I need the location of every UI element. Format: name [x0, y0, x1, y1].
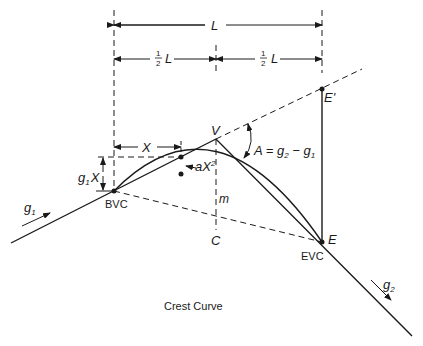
point-curve-x	[179, 172, 184, 177]
angle-arc	[244, 124, 251, 158]
half-num-1: 1	[156, 49, 161, 58]
half-num-2: 1	[261, 49, 266, 58]
label-a-equation: A = g2 − g1	[253, 143, 315, 160]
label-v: V	[211, 123, 221, 138]
label-c: C	[211, 233, 221, 248]
tangent-extension-dashed	[216, 69, 362, 139]
label-ax2: aX2	[195, 159, 216, 174]
label-m: m	[219, 192, 229, 206]
label-L: L	[211, 18, 218, 33]
half-L-label-1: L	[165, 51, 172, 66]
crest-curve	[114, 149, 322, 242]
label-x: X	[141, 140, 152, 155]
label-g2: g2	[383, 277, 395, 294]
half-L-label-2: L	[271, 51, 278, 66]
half-den-1: 2	[156, 59, 161, 68]
label-g1: g1	[24, 200, 36, 217]
crest-curve-diagram: L 1 2 L 1 2 L X g1X aX2 V m C BVC EVC E	[0, 0, 423, 346]
diagram-title: Crest Curve	[164, 300, 223, 312]
label-bvc: BVC	[105, 198, 128, 210]
label-evc: EVC	[301, 250, 324, 262]
angle-arc-top-arrow	[248, 124, 249, 128]
point-evc	[320, 240, 325, 245]
label-e: E	[328, 232, 337, 247]
label-e-prime: E'	[324, 90, 336, 105]
half-den-2: 2	[261, 59, 266, 68]
label-g1x: g1X	[78, 170, 101, 187]
